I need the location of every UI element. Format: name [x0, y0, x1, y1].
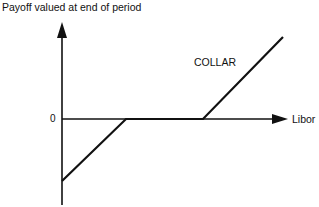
- x-axis-arrow-icon: [272, 114, 288, 124]
- collar-payoff-line: [62, 37, 283, 181]
- collar-diagram: [0, 0, 319, 207]
- y-axis-arrow-icon: [57, 22, 67, 38]
